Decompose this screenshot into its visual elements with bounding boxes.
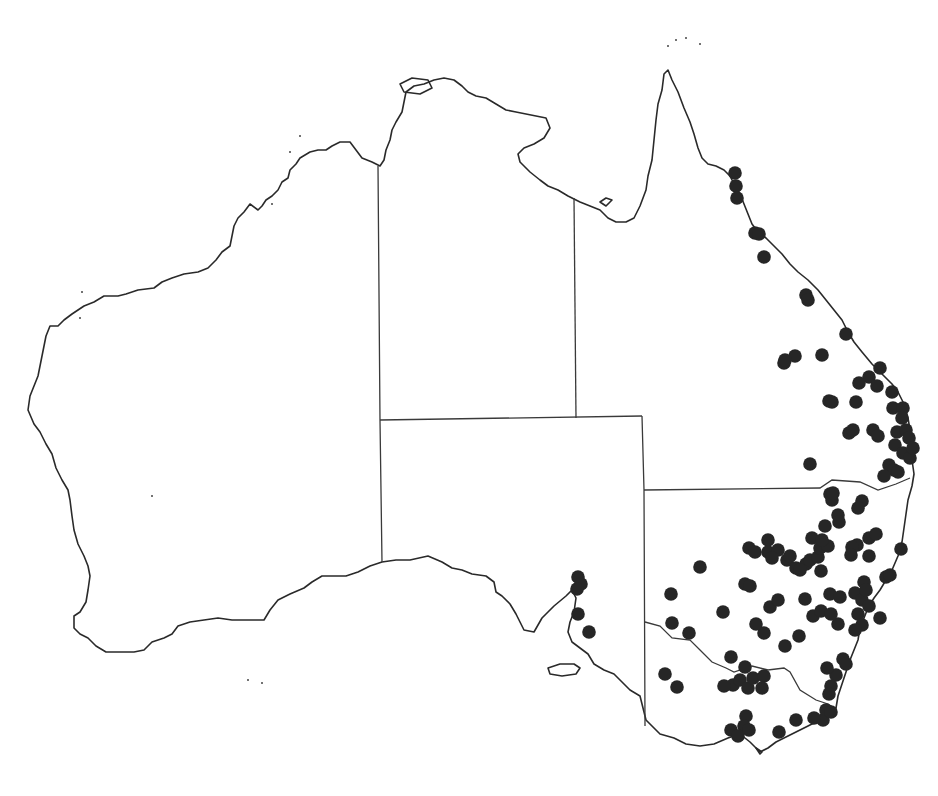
sa-east-border [642, 416, 645, 726]
occurrence-point [883, 568, 897, 582]
occurrence-point [778, 639, 792, 653]
occurrence-point [895, 411, 909, 425]
occurrence-point [873, 361, 887, 375]
occurrence-point [885, 385, 899, 399]
occurrence-point [825, 395, 839, 409]
occurrence-point [778, 353, 792, 367]
occurrence-point [664, 587, 678, 601]
occurrence-point [670, 680, 684, 694]
occurrence-point [894, 542, 908, 556]
occurrence-point [772, 725, 786, 739]
occurrence-point [765, 551, 779, 565]
nt-qld-border [574, 198, 576, 418]
occurrence-point [820, 661, 834, 675]
occurrence-point [839, 327, 853, 341]
occurrence-point [793, 563, 807, 577]
occurrence-point [757, 669, 771, 683]
island-speck [685, 37, 687, 39]
occurrence-point [757, 250, 771, 264]
occurrence-point [852, 376, 866, 390]
island-speck [289, 151, 291, 153]
island-speck [299, 135, 301, 137]
island-speck [675, 39, 677, 41]
occurrence-point [761, 533, 775, 547]
occurrence-point [848, 623, 862, 637]
occurrence-point [906, 441, 920, 455]
occurrence-point [743, 579, 757, 593]
gulf-islands [600, 198, 612, 206]
qld-nsw-border [644, 478, 910, 490]
occurrence-point [844, 548, 858, 562]
island-speck [151, 495, 153, 497]
occurrence-point [803, 457, 817, 471]
occurrence-point [814, 564, 828, 578]
wa-border [378, 166, 382, 562]
occurrence-point [818, 519, 832, 533]
occurrence-point [801, 293, 815, 307]
occurrence-point [717, 679, 731, 693]
island-speck [81, 291, 83, 293]
occurrence-point [862, 549, 876, 563]
island-speck [247, 679, 249, 681]
distribution-map [0, 0, 938, 796]
island-speck [261, 682, 263, 684]
island-speck [699, 43, 701, 45]
island-speck [667, 45, 669, 47]
occurrence-point [658, 667, 672, 681]
occurrence-point [749, 617, 763, 631]
occurrence-point [665, 616, 679, 630]
occurrence-point [815, 348, 829, 362]
occurrence-point [571, 607, 585, 621]
occurrence-point [807, 711, 821, 725]
occurrence-point [730, 191, 744, 205]
occurrence-point [789, 713, 803, 727]
occurrence-point [728, 166, 742, 180]
occurrence-point [832, 515, 846, 529]
occurrence-point [873, 611, 887, 625]
state-borders-layer [378, 166, 910, 726]
occurrence-point [752, 227, 766, 241]
occurrence-point [871, 429, 885, 443]
occurrence-point [815, 533, 829, 547]
occurrence-point [891, 465, 905, 479]
occurrence-point [824, 705, 838, 719]
occurrence-point [682, 626, 696, 640]
island-speck [79, 317, 81, 319]
occurrence-point [869, 527, 883, 541]
island-speck [271, 203, 273, 205]
island-specks [79, 37, 701, 684]
occurrence-point [783, 549, 797, 563]
occurrence-point [748, 545, 762, 559]
occurrence-point [792, 629, 806, 643]
occurrence-point [729, 179, 743, 193]
occurrence-point [824, 607, 838, 621]
occurrence-point [851, 501, 865, 515]
occurrence-point [833, 590, 847, 604]
occurrence-point [826, 486, 840, 500]
occurrence-point [738, 660, 752, 674]
occurrence-points-layer [570, 166, 920, 743]
occurrence-point [846, 423, 860, 437]
occurrence-point [877, 469, 891, 483]
occurrence-point [859, 583, 873, 597]
nt-sa-border [380, 416, 642, 420]
occurrence-point [731, 729, 745, 743]
occurrence-point [724, 650, 738, 664]
occurrence-point [693, 560, 707, 574]
kangaroo-island [548, 664, 580, 676]
occurrence-point [716, 605, 730, 619]
occurrence-point [822, 687, 836, 701]
occurrence-point [771, 593, 785, 607]
occurrence-point [849, 395, 863, 409]
occurrence-point [839, 657, 853, 671]
occurrence-point [798, 592, 812, 606]
australia-map-canvas [0, 0, 938, 796]
occurrence-point [570, 582, 584, 596]
occurrence-point [862, 599, 876, 613]
occurrence-point [755, 681, 769, 695]
occurrence-point [582, 625, 596, 639]
occurrence-point [870, 379, 884, 393]
